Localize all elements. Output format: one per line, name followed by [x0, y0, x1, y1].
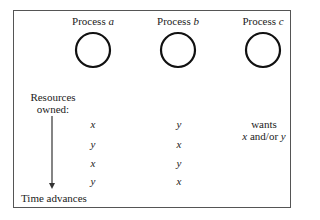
- row3-a: x: [91, 157, 96, 169]
- time-arrow-head: [49, 183, 55, 189]
- process-c-circle: [246, 33, 280, 67]
- row1-b: y: [177, 118, 182, 130]
- process-c-label: Process c: [242, 15, 283, 27]
- process-a-circle: [76, 33, 110, 67]
- process-c-wants: wants x and/or y: [242, 118, 285, 142]
- row1-a: x: [91, 118, 96, 130]
- row2-b: x: [177, 138, 182, 150]
- process-b-circle: [161, 33, 195, 67]
- time-advances-label: Time advances: [21, 192, 87, 204]
- resources-owned-label: Resources owned:: [30, 91, 75, 115]
- process-a-label: Process a: [72, 15, 114, 27]
- row4-b: x: [177, 175, 182, 187]
- row4-a: y: [91, 175, 96, 187]
- row3-b: y: [177, 157, 182, 169]
- row2-a: y: [91, 138, 96, 150]
- process-b-label: Process b: [157, 15, 199, 27]
